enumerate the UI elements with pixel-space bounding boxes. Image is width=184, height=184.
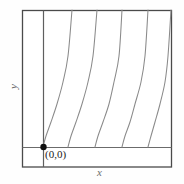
y-axis-label: y (8, 84, 19, 89)
x-axis-label: x (97, 167, 102, 178)
plot-canvas (0, 0, 184, 184)
figure-container: (0,0) y x (0, 0, 184, 184)
origin-point-label: (0,0) (45, 149, 66, 160)
